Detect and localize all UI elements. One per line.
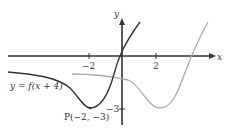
y-axis-arrow-icon <box>119 18 125 25</box>
tick-label-2: 2 <box>153 61 159 71</box>
point-label: P(−2, −3) <box>64 112 109 122</box>
curve-f-x-plus-4 <box>8 22 140 108</box>
curve-label: y = f(x + 4) <box>9 81 63 91</box>
tick-label-neg2: −2 <box>82 61 95 71</box>
x-axis-arrow-icon <box>209 53 216 59</box>
y-axis-label: y <box>113 9 120 19</box>
graph-diagram: x y −2 2 −3 y = f(x + 4) P(−2, −3) <box>0 0 228 129</box>
point-p <box>89 107 92 110</box>
x-axis-label: x <box>217 52 222 62</box>
